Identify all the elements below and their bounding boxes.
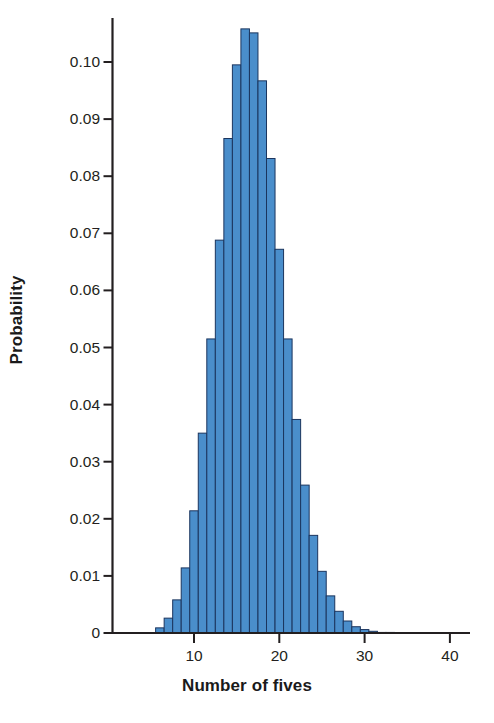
histogram-bar xyxy=(275,249,284,633)
histogram-bar xyxy=(318,571,327,633)
histogram-bar xyxy=(224,139,233,633)
histogram-bar xyxy=(164,618,173,633)
histogram-plot-area xyxy=(0,0,494,723)
histogram-bar xyxy=(292,419,301,633)
histogram-bar xyxy=(173,600,182,633)
histogram-bar xyxy=(181,568,190,633)
histogram-bar xyxy=(232,65,241,633)
histogram-bar xyxy=(198,433,207,633)
histogram-bar xyxy=(335,611,344,633)
histogram-bar xyxy=(326,596,335,633)
histogram-bar xyxy=(284,339,293,633)
histogram-bar xyxy=(215,240,224,633)
histogram-bar xyxy=(267,159,276,634)
histogram-bar xyxy=(309,535,318,633)
histogram-bar xyxy=(301,485,310,633)
histogram-bars xyxy=(156,29,395,633)
histogram-bar xyxy=(343,621,352,633)
histogram-bar xyxy=(190,511,199,633)
histogram-bar xyxy=(207,339,216,633)
histogram-bar xyxy=(249,33,258,633)
histogram-bar xyxy=(258,81,267,633)
histogram-bar xyxy=(241,29,250,633)
probability-histogram-figure: Probability Number of fives 00.010.020.0… xyxy=(0,0,494,723)
